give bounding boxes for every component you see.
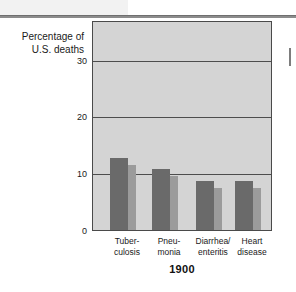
sliver-mark [289, 48, 291, 66]
gridline-30 [93, 61, 271, 62]
bar-front-face [235, 181, 253, 230]
bar-side-face [253, 188, 261, 230]
y-tick-label-20: 20 [61, 113, 87, 122]
y-tick-label-0: 0 [61, 227, 87, 236]
bar-chart-figure: Percentage of U.S. deaths 0102030 Tuber-… [0, 18, 296, 292]
y-tick-label-10: 10 [61, 170, 87, 179]
bar-side-face [128, 165, 136, 230]
x-category-label-4: Heart disease [226, 236, 278, 258]
top-decorative-band [0, 0, 128, 15]
gridline-20 [93, 117, 271, 118]
bar-side-face [214, 188, 222, 230]
bar-side-face [170, 176, 178, 230]
plot-area [92, 21, 272, 231]
y-tick-label-30: 30 [61, 57, 87, 66]
adjacent-figure-sliver [287, 46, 296, 68]
plot-inner [93, 22, 271, 230]
y-axis-label: Percentage of U.S. deaths [6, 30, 84, 56]
bar-front-face [110, 158, 128, 230]
bar-front-face [196, 181, 214, 230]
bar-front-face [152, 169, 170, 230]
x-axis-title: 1900 [92, 263, 272, 275]
